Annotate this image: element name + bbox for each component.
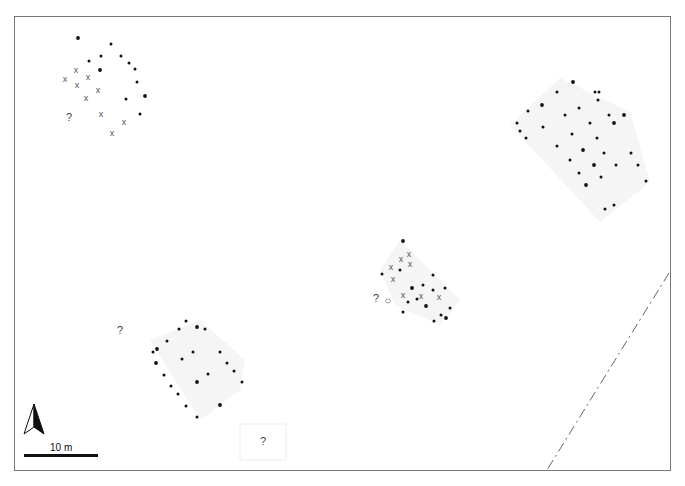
post-hole — [241, 381, 244, 384]
post-hole — [139, 113, 142, 116]
post-hole — [525, 137, 528, 140]
post-hole — [608, 114, 611, 117]
post-hole — [594, 91, 597, 94]
post-hole — [219, 351, 222, 354]
post-hole — [592, 163, 596, 167]
post-hole — [196, 416, 199, 419]
post-hole — [410, 286, 414, 290]
uncertain-marker: ? — [260, 435, 266, 447]
post-hole — [163, 374, 166, 377]
post-hole — [516, 122, 519, 125]
post-hole — [613, 204, 616, 207]
post-hole — [192, 351, 195, 354]
cross-marker: x — [63, 74, 68, 84]
cross-marker: x — [99, 109, 104, 119]
post-hole — [432, 274, 435, 277]
post-hole — [542, 126, 545, 129]
cross-marker: x — [75, 80, 80, 90]
post-hole — [449, 307, 452, 310]
post-hole — [195, 325, 199, 329]
post-hole — [527, 110, 530, 113]
post-hole — [433, 320, 436, 323]
cross-marker: x — [407, 249, 412, 259]
post-hole — [564, 114, 567, 117]
post-hole — [519, 130, 522, 133]
post-hole — [233, 370, 236, 373]
scale-bar-line — [24, 454, 98, 457]
post-hole — [195, 380, 199, 384]
post-hole — [432, 289, 435, 292]
post-hole — [143, 94, 147, 98]
cross-marker: x — [408, 259, 413, 269]
post-hole — [402, 311, 405, 314]
post-hole — [622, 113, 626, 117]
post-hole — [540, 103, 544, 107]
post-hole — [98, 68, 102, 72]
post-hole — [571, 80, 575, 84]
cross-marker: x — [419, 291, 424, 301]
post-hole — [600, 176, 603, 179]
post-hole — [76, 36, 80, 40]
post-hole — [556, 91, 559, 94]
post-hole — [569, 159, 572, 162]
cross-marker: x — [84, 93, 89, 103]
post-hole — [604, 208, 607, 211]
post-hole — [185, 320, 188, 323]
post-hole — [556, 145, 559, 148]
post-hole — [185, 405, 188, 408]
post-hole — [581, 148, 585, 152]
post-hole — [155, 347, 159, 351]
post-hole — [88, 60, 91, 63]
cross-marker: x — [389, 262, 394, 272]
post-hole — [615, 164, 618, 167]
post-hole — [645, 180, 648, 183]
feature-s: ? — [260, 435, 266, 447]
post-hole — [181, 358, 184, 361]
post-hole — [166, 340, 169, 343]
post-hole — [207, 373, 210, 376]
cross-marker: x — [437, 292, 442, 302]
post-hole — [110, 43, 113, 46]
post-hole — [218, 403, 222, 407]
uncertain-marker: ? — [66, 111, 72, 123]
post-hole — [100, 55, 103, 58]
scale-bar-label: 10 m — [50, 442, 72, 453]
cross-marker: x — [391, 274, 396, 284]
post-hole — [598, 91, 601, 94]
post-hole — [125, 98, 128, 101]
site-plan: xxxxxxxxx?xxxxxxxx??? 10 m — [0, 0, 685, 486]
post-hole — [637, 164, 640, 167]
post-hole — [571, 133, 574, 136]
post-hole — [226, 362, 229, 365]
post-hole — [177, 393, 180, 396]
post-hole — [603, 152, 606, 155]
post-hole — [407, 301, 410, 304]
cross-marker: x — [401, 290, 406, 300]
post-hole — [444, 316, 448, 320]
post-hole — [578, 107, 581, 110]
post-hole — [440, 314, 443, 317]
post-hole — [399, 269, 402, 272]
post-hole — [134, 68, 137, 71]
post-hole — [381, 273, 384, 276]
post-hole — [444, 287, 447, 290]
cross-marker: x — [74, 65, 79, 75]
post-hole — [170, 385, 173, 388]
post-hole — [589, 122, 592, 125]
cross-marker: x — [96, 85, 101, 95]
post-hole — [584, 183, 588, 187]
post-hole — [597, 99, 600, 102]
post-hole — [136, 81, 139, 84]
post-hole — [424, 304, 428, 308]
post-hole — [128, 62, 131, 65]
post-hole — [152, 351, 155, 354]
post-hole — [596, 137, 599, 140]
post-hole — [204, 328, 207, 331]
cross-marker: x — [122, 117, 127, 127]
cross-marker: x — [399, 254, 404, 264]
post-hole — [178, 328, 181, 331]
cross-marker: x — [86, 72, 91, 82]
post-hole — [612, 121, 616, 125]
post-hole — [578, 172, 581, 175]
post-hole — [401, 239, 405, 243]
